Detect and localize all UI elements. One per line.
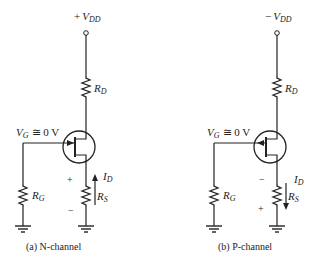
polarity-top: + <box>67 174 73 185</box>
source-resistor-icon <box>273 184 281 207</box>
gate-resistor-label: RG <box>222 189 236 203</box>
supply-label: −VDD <box>265 10 292 24</box>
polarity-top: − <box>259 174 265 185</box>
caption: (a) N-channel <box>26 241 81 253</box>
drain-resistor-icon <box>82 76 90 99</box>
caption: (b) P-channel <box>218 241 272 253</box>
gate-arrow-in-icon <box>67 140 74 146</box>
gate-arrow-out-icon <box>257 140 264 146</box>
ground-icon <box>269 226 285 232</box>
supply-label: +VDD <box>74 10 101 24</box>
drain-resistor-icon <box>273 76 281 99</box>
supply-terminal <box>275 31 280 36</box>
ground-icon <box>206 226 222 232</box>
source-resistor-label: RS <box>96 190 108 204</box>
circuit-p-channel: −VDD RD VG≅ 0 V RG RS − + ID <box>206 10 304 253</box>
polarity-bottom: − <box>68 205 74 216</box>
ground-icon <box>15 226 31 232</box>
source-resistor-icon <box>82 184 90 207</box>
polarity-bottom: + <box>258 203 264 214</box>
drain-resistor-label: RD <box>284 82 298 96</box>
gate-resistor-icon <box>19 184 27 207</box>
gate-voltage-label: VG≅ 0 V <box>16 126 59 140</box>
ground-icon <box>78 226 94 232</box>
source-resistor-label: RS <box>287 190 299 204</box>
gate-resistor-label: RG <box>31 189 45 203</box>
circuit-n-channel: +VDD RD VG≅ 0 V RG RS + − ID <box>15 10 113 253</box>
jfet-bias-diagram: +VDD RD VG≅ 0 V RG RS + − ID <box>0 0 315 263</box>
current-label: ID <box>102 170 113 184</box>
gate-voltage-label: VG≅ 0 V <box>207 126 250 140</box>
current-label: ID <box>293 173 304 187</box>
drain-resistor-label: RD <box>93 82 107 96</box>
supply-terminal <box>84 31 89 36</box>
gate-resistor-icon <box>210 184 218 207</box>
